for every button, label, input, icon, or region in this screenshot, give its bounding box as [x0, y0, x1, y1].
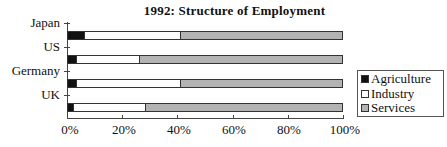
bar-segment-industry — [76, 80, 180, 87]
y-tick — [64, 71, 70, 72]
bar-segment-agriculture — [68, 80, 76, 87]
x-tick — [177, 115, 178, 119]
legend-item-agriculture: Agriculture — [361, 72, 443, 87]
agriculture-swatch-icon — [361, 75, 369, 83]
y-tick — [64, 47, 70, 48]
bar-segment-services — [180, 32, 342, 39]
x-tick — [122, 115, 123, 119]
y-label-japan: Japan — [30, 16, 60, 30]
bar-segment-services — [139, 56, 342, 63]
bar-segment-industry — [76, 56, 139, 63]
chart-title: 1992: Structure of Employment — [0, 3, 447, 19]
services-swatch-icon — [361, 104, 369, 112]
y-label-germany: Germany — [12, 64, 60, 78]
x-tick — [288, 115, 289, 119]
legend-item-industry: Industry — [361, 87, 443, 102]
bar-segment-services — [180, 80, 342, 87]
legend-label: Industry — [371, 87, 414, 102]
x-tick — [343, 115, 344, 119]
x-axis — [67, 118, 344, 119]
bar-segment-agriculture — [68, 32, 84, 39]
legend: Agriculture Industry Services — [357, 70, 444, 117]
x-tick — [233, 115, 234, 119]
x-label-40: 40% — [167, 122, 191, 138]
legend-label: Services — [371, 101, 415, 116]
x-label-80: 80% — [277, 122, 301, 138]
bar-us — [67, 55, 343, 64]
bar-japan — [67, 31, 343, 40]
x-label-0: 0% — [61, 122, 78, 138]
bar-segment-industry — [84, 32, 180, 39]
y-label-us: US — [43, 40, 60, 54]
x-label-60: 60% — [222, 122, 246, 138]
legend-item-services: Services — [361, 101, 443, 116]
x-label-100: 100% — [330, 122, 360, 138]
y-label-uk: UK — [41, 88, 60, 102]
y-tick — [64, 95, 70, 96]
bar-segment-services — [145, 104, 342, 111]
chart-title-text: 1992: Structure of Employment — [144, 3, 325, 18]
y-tick — [64, 23, 70, 24]
legend-label: Agriculture — [371, 72, 431, 87]
bar-uk — [67, 103, 343, 112]
bar-germany — [67, 79, 343, 88]
x-label-20: 20% — [112, 122, 136, 138]
bar-segment-industry — [73, 104, 144, 111]
bar-segment-agriculture — [68, 56, 76, 63]
industry-swatch-icon — [361, 90, 369, 98]
x-tick — [67, 115, 68, 119]
